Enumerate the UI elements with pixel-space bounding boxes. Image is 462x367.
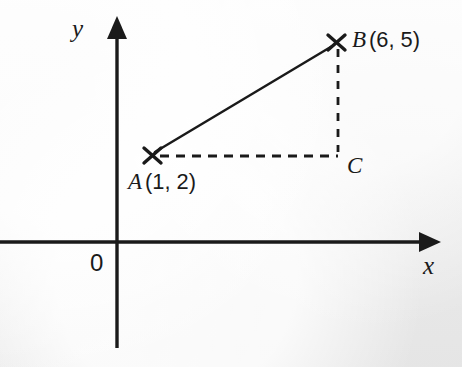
origin-label: 0 xyxy=(90,251,103,275)
axis-group xyxy=(0,16,441,348)
y-axis-arrowhead xyxy=(107,16,127,39)
point-b-label: B(6, 5) xyxy=(352,28,420,51)
point-b-coordinates: (6, 5) xyxy=(369,27,420,52)
point-a-coordinates: (1, 2) xyxy=(145,169,196,194)
point-a-label: A(1, 2) xyxy=(128,170,196,193)
y-axis-label: y xyxy=(72,16,83,41)
coordinate-geometry-figure: y x 0 A(1, 2) B(6, 5) C xyxy=(0,0,462,367)
segment-ab-hypotenuse xyxy=(155,45,334,152)
point-a-letter: A xyxy=(128,169,142,194)
triangle-segments xyxy=(155,45,338,156)
diagram-canvas xyxy=(0,0,462,367)
point-b-marker xyxy=(328,35,345,50)
point-c-label: C xyxy=(347,154,362,177)
point-a-marker xyxy=(144,148,161,163)
x-axis-arrowhead xyxy=(419,232,441,252)
point-b-letter: B xyxy=(352,27,366,52)
x-axis-label: x xyxy=(423,253,434,278)
